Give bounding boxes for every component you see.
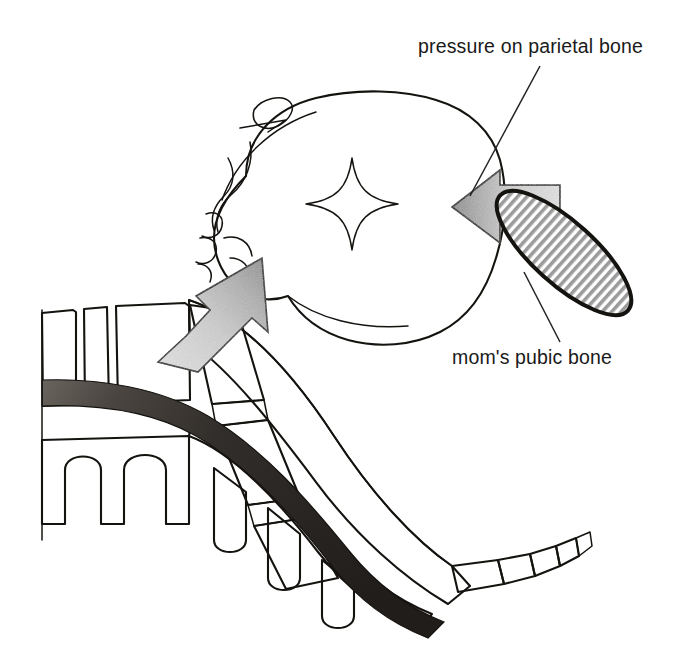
birth-mechanics-figure: pressure on parietal bone mom's pubic bo… (0, 0, 683, 659)
label-pressure-on-parietal-bone: pressure on parietal bone (418, 35, 643, 57)
anatomical-diagram: pressure on parietal bone mom's pubic bo… (0, 0, 683, 659)
label-moms-pubic-bone: mom's pubic bone (452, 346, 612, 368)
